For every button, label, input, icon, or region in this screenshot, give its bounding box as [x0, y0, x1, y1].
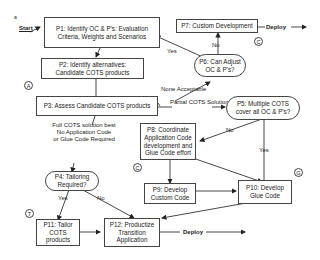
node-p2-identify-alternatives: P2: Identify alternatives: Candidate COT… — [41, 58, 144, 79]
node-p10-label: P10: Develop Glue Code — [241, 184, 289, 199]
edge-label-p5-yes: Yes — [259, 147, 269, 154]
edge-label-p6-yes: Yes — [167, 48, 177, 55]
edge-label-deploy-bottom: Deploy — [183, 229, 203, 236]
connector-marker-c-top: C — [254, 37, 263, 46]
node-p9-develop-custom-code: P9: Develop Custom Code — [144, 183, 196, 204]
node-p6-can-adjust: P6: Can Adjust OC & P's? — [194, 54, 246, 77]
node-p9-label: P9: Develop Custom Code — [147, 186, 193, 201]
edge-label-full-cots-line1: Full COTS solution best — [44, 122, 124, 129]
node-p12-productize: P12: Productize Transition Application — [104, 218, 160, 247]
node-p7-custom-development: P7: Custom Development — [176, 19, 258, 33]
edge-label-full-cots-line3: or Glue Code Required — [44, 136, 124, 143]
edge-label-none-acceptable: None Acceptable — [161, 86, 206, 93]
node-p7-label: P7: Custom Development — [181, 22, 253, 30]
edge-label-full-cots-line2: No Application Code — [44, 129, 124, 136]
node-p8-label: P8: Coordinate Application Code developm… — [143, 126, 193, 156]
edge-label-p4-yes: Yes — [58, 195, 68, 202]
connector-marker-a: A — [24, 81, 33, 90]
edge-label-p5-no: No — [226, 127, 234, 134]
node-p1-identify-oc: P1: Identify OC & P's: Evaluation Criter… — [44, 17, 160, 48]
node-p1-label: P1: Identify OC & P's: Evaluation Criter… — [47, 25, 157, 40]
node-p4-label: P4: Tailoring Required? — [48, 173, 96, 188]
edge-label-partial-cots: Partial COTS Solution Best — [170, 99, 212, 106]
node-p12-label: P12: Productize Transition Application — [107, 221, 157, 244]
node-p10-develop-glue-code: P10: Develop Glue Code — [238, 180, 292, 204]
edge-label-p6-no: No — [212, 42, 220, 49]
node-p11-tailor-cots: P11: Tailor COTS products — [36, 219, 80, 246]
node-p8-coordinate-code: P8: Coordinate Application Code developm… — [140, 123, 196, 160]
node-p5-label: P5: Multiple COTS cover all OC & P's? — [229, 100, 297, 115]
connector-marker-t: T — [25, 209, 34, 218]
node-p5-multiple-cots: P5: Multiple COTS cover all OC & P's? — [226, 96, 300, 120]
node-p11-label: P11: Tailor COTS products — [39, 221, 77, 244]
connector-marker-c-mid: C — [133, 163, 142, 172]
node-p2-label: P2: Identify alternatives: Candidate COT… — [44, 61, 141, 76]
edge-label-full-cots: Full COTS solution best No Application C… — [44, 122, 124, 144]
node-p6-label: P6: Can Adjust OC & P's? — [197, 58, 243, 73]
connector-marker-g: G — [294, 168, 303, 177]
edge-label-p4-no: No — [97, 195, 105, 202]
node-p3-label: P3: Assess Candidate COTS products — [44, 102, 151, 110]
node-p3-assess-cots: P3: Assess Candidate COTS products — [36, 96, 158, 116]
start-marker: a — [14, 14, 17, 21]
node-p4-tailoring-required: P4: Tailoring Required? — [45, 171, 99, 191]
edge-label-deploy-top: Deploy — [266, 24, 286, 31]
start-label: Start — [19, 25, 33, 32]
cots-process-flowchart: a Start P1: Identify OC & P's: Evaluatio… — [0, 0, 320, 260]
